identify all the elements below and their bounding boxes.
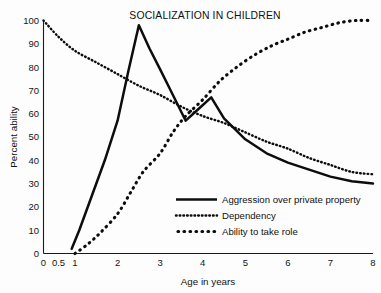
- y-tick-label: 50: [28, 131, 39, 142]
- legend-label-dependency: Dependency: [222, 210, 276, 221]
- x-tick-label: 1: [72, 257, 77, 268]
- socialization-line-chart: SOCIALIZATION IN CHILDREN 01020304050607…: [0, 0, 381, 293]
- x-tick-label: 4: [200, 257, 205, 268]
- y-tick-label: 70: [28, 85, 39, 96]
- chart-background: [0, 0, 381, 293]
- y-tick-label: 0: [34, 248, 39, 259]
- y-tick-label: 10: [28, 225, 39, 236]
- x-tick-label: 6: [285, 257, 290, 268]
- x-tick-label: 2: [115, 257, 120, 268]
- y-tick-label: 20: [28, 201, 39, 212]
- y-tick-label: 100: [23, 15, 39, 26]
- y-axis-title: Percent ability: [8, 106, 19, 168]
- y-tick-label: 30: [28, 178, 39, 189]
- y-tick-label: 80: [28, 62, 39, 73]
- chart-title: SOCIALIZATION IN CHILDREN: [129, 10, 280, 21]
- y-tick-label: 90: [28, 38, 39, 49]
- x-tick-label: 0.5: [52, 257, 65, 268]
- x-axis-title: Age in years: [181, 276, 236, 287]
- x-tick-label: 0: [41, 257, 46, 268]
- x-tick-label: 3: [157, 257, 162, 268]
- x-tick-label: 7: [328, 257, 333, 268]
- x-tick-label: 5: [243, 257, 248, 268]
- y-tick-label: 40: [28, 155, 39, 166]
- legend-label-ability: Ability to take role: [222, 226, 298, 237]
- legend-label-aggression: Aggression over private property: [222, 194, 361, 205]
- y-tick-label: 60: [28, 108, 39, 119]
- x-tick-label: 8: [370, 257, 375, 268]
- chart-page: SOCIALIZATION IN CHILDREN 01020304050607…: [0, 0, 381, 293]
